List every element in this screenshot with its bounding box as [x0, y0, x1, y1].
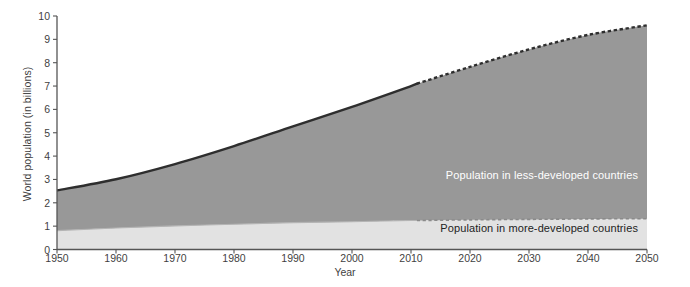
area-less-developed-countries [57, 25, 647, 249]
y-axis-tick-labels: 012345678910 [22, 0, 50, 287]
x-tick-label-2050: 2050 [617, 252, 677, 264]
x-axis-title: Year [0, 266, 690, 278]
y-tick-label-3: 3 [22, 173, 50, 185]
x-tick-label-1980: 1980 [204, 252, 264, 264]
y-tick-label-7: 7 [22, 80, 50, 92]
x-tick-label-1950: 1950 [27, 252, 87, 264]
series-label-more-developed: Population in more-developed countries [440, 222, 638, 234]
x-tick-label-2030: 2030 [499, 252, 559, 264]
y-tick-label-4: 4 [22, 150, 50, 162]
y-tick-label-5: 5 [22, 127, 50, 139]
x-tick-label-2040: 2040 [558, 252, 618, 264]
y-tick-label-9: 9 [22, 33, 50, 45]
y-tick-label-8: 8 [22, 57, 50, 69]
y-tick-label-2: 2 [22, 197, 50, 209]
x-tick-label-1960: 1960 [86, 252, 146, 264]
y-tick-label-10: 10 [22, 10, 50, 22]
x-tick-label-2010: 2010 [381, 252, 441, 264]
x-tick-label-2000: 2000 [322, 252, 382, 264]
y-tick-label-6: 6 [22, 103, 50, 115]
x-tick-label-2020: 2020 [440, 252, 500, 264]
series-label-less-developed: Population in less-developed countries [446, 169, 638, 181]
x-tick-label-1990: 1990 [263, 252, 323, 264]
chart-plot-area [0, 0, 690, 287]
y-tick-label-1: 1 [22, 220, 50, 232]
x-tick-label-1970: 1970 [145, 252, 205, 264]
population-area-chart-figure: World population (in billions) 012345678… [0, 0, 690, 287]
